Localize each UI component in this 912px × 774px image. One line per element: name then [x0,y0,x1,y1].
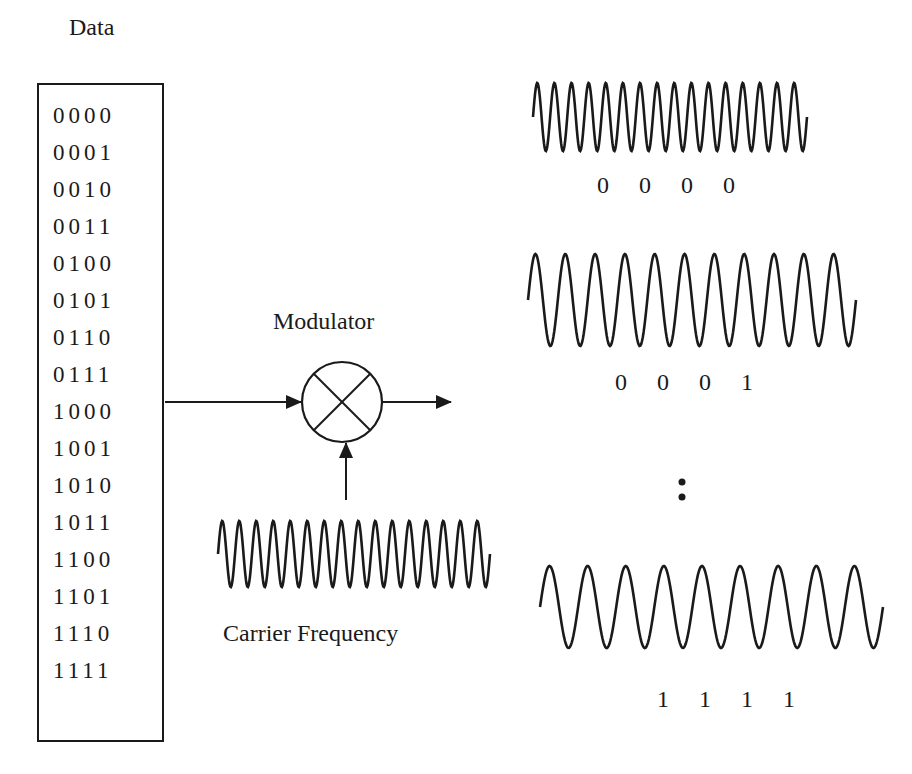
ellipsis-dot [679,479,686,486]
ellipsis-dot [679,494,686,501]
output-code-label: 0 0 0 0 [597,172,747,199]
output-code-label: 0 0 0 1 [615,369,765,396]
output-wave-1111 [540,566,883,648]
output-wave-0001 [528,254,856,346]
output-code-label: 1 1 1 1 [657,686,807,713]
carrier-frequency-label: Carrier Frequency [223,620,398,647]
output-wave-0000 [533,83,807,151]
modulator-multiplier-icon [302,362,382,442]
diagram-graphics [0,0,912,774]
modulator-label: Modulator [273,308,374,335]
carrier-wave [218,521,490,587]
